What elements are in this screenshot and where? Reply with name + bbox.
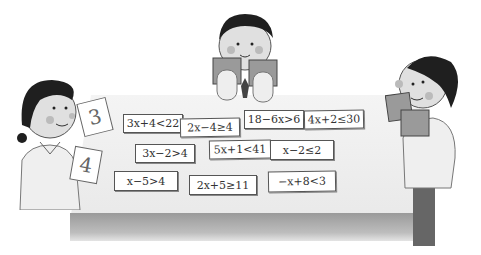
inequality-card[interactable]: 3x−2>4 [135, 144, 195, 163]
inequality-card[interactable]: 2x+5≥11 [189, 175, 257, 195]
inequality-text: x−2≤2 [283, 144, 322, 157]
inequality-text: 2x+5≥11 [197, 179, 250, 192]
held-card-four: 4 [69, 146, 102, 184]
left-girl: 3 4 [10, 70, 110, 210]
inequality-card[interactable]: 2x−4≥4 [180, 117, 240, 137]
inequality-card[interactable]: x−5>4 [114, 171, 178, 191]
right-boy [385, 48, 481, 248]
held-card-four-text: 4 [78, 152, 95, 178]
inequality-text: 5x+1<41 [214, 143, 267, 157]
inequality-card[interactable]: x−2≤2 [270, 140, 334, 160]
center-boy [195, 8, 295, 108]
inequality-card[interactable]: 5x+1<41 [209, 139, 271, 159]
held-card-three-text: 3 [86, 104, 104, 130]
table-front-edge [70, 213, 420, 241]
inequality-text: x−5>4 [127, 175, 166, 188]
inequality-text: 4x+2≤30 [308, 113, 361, 127]
illustration-scene: 3 4 3x+4<22 2x−4≥4 18−6x>6 4x+2≤30 3x−2>… [0, 0, 481, 255]
inequality-text: −x+8<3 [278, 175, 326, 189]
inequality-text: 3x−2>4 [142, 147, 188, 160]
inequality-text: 18−6x>6 [248, 113, 301, 126]
inequality-card[interactable]: −x+8<3 [268, 170, 336, 192]
inequality-card[interactable]: 3x+4<22 [123, 114, 183, 133]
inequality-card[interactable]: 18−6x>6 [244, 110, 304, 129]
inequality-card[interactable]: 4x+2≤30 [304, 109, 364, 129]
inequality-text: 2x−4≥4 [187, 121, 233, 135]
inequality-text: 3x+4<22 [127, 117, 180, 130]
